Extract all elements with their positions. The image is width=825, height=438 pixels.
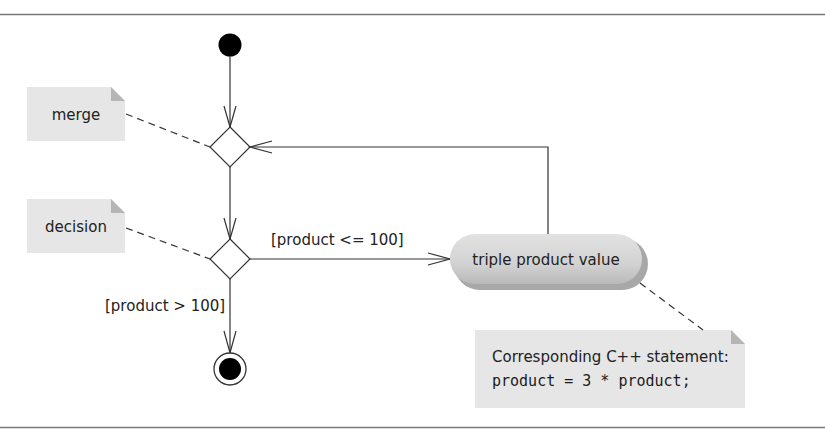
merge-note-text: merge: [52, 106, 101, 124]
decision-note-text: decision: [45, 218, 107, 236]
merge-note: merge: [27, 87, 125, 141]
decision-node: [210, 239, 250, 279]
merge-note-anchor: [126, 114, 210, 147]
activity-diagram: [product <= 100] [product > 100] triple …: [0, 0, 825, 438]
guard-true-label: [product <= 100]: [271, 231, 404, 249]
statement-note-line2: product = 3 * product;: [492, 372, 691, 390]
guard-false-label: [product > 100]: [105, 297, 225, 315]
statement-note-anchor: [640, 283, 703, 330]
decision-note: decision: [27, 199, 125, 253]
final-node: [219, 358, 241, 380]
action-label: triple product value: [472, 251, 619, 269]
decision-note-anchor: [126, 228, 210, 259]
statement-note-line1: Corresponding C++ statement:: [492, 348, 729, 366]
action-state: triple product value: [450, 234, 648, 290]
initial-node: [219, 34, 242, 57]
flow-action-to-merge: [250, 147, 548, 234]
merge-node: [210, 127, 250, 167]
statement-note: Corresponding C++ statement: product = 3…: [475, 330, 745, 408]
